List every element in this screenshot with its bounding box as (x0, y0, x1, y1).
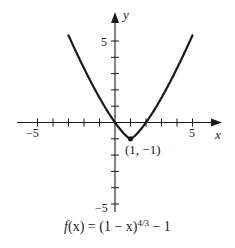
caption-exponent: 4/3 (137, 218, 149, 228)
point-annotation: (1, −1) (125, 143, 161, 156)
x-tick-label-5: 5 (189, 127, 195, 139)
x-axis-label: x (215, 128, 221, 141)
axes (17, 20, 214, 212)
caption-body: (x) = (1 − x) (68, 219, 137, 234)
x-tick-label-neg5: −5 (26, 127, 39, 139)
y-tick-label-5: 5 (101, 36, 107, 48)
y-tick-label-neg5: −5 (95, 202, 108, 214)
plot-canvas (0, 0, 235, 248)
minimum-point-marker (128, 136, 133, 141)
x-axis-arrow-icon (211, 119, 222, 127)
caption-tail: − 1 (149, 219, 171, 234)
y-axis-label: y (123, 8, 129, 21)
y-axis-arrow-icon (111, 12, 119, 23)
function-caption: f(x) = (1 − x)4/3 − 1 (0, 218, 235, 235)
